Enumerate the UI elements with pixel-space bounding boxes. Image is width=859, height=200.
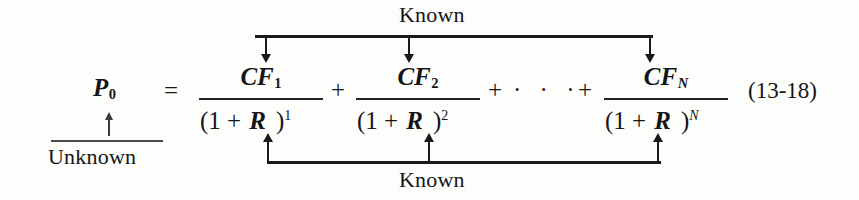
term-1-cf: CF <box>240 63 273 90</box>
bottom-known-label: Known <box>399 167 465 193</box>
term-3-exponent: N <box>689 108 698 123</box>
top-arrow-middle <box>404 36 414 63</box>
term-2-cf: CF <box>397 63 430 90</box>
top-arrow-left <box>261 36 271 63</box>
equals-sign: = <box>164 77 178 105</box>
term-1: CF1 (1 +R)1 <box>199 62 323 137</box>
term-3-denominator: (1 +R)N <box>604 100 728 137</box>
ellipsis: · · · <box>513 76 580 104</box>
unknown-rule <box>51 140 163 142</box>
bottom-arrow-right <box>653 133 663 163</box>
term-1-numerator: CF1 <box>199 62 323 98</box>
bottom-arrow-middle <box>424 133 434 163</box>
p-subscript: 0 <box>109 86 116 102</box>
term-3-open: (1 + <box>605 107 646 134</box>
top-known-label: Known <box>399 2 465 28</box>
term-1-sub: 1 <box>274 75 281 91</box>
term-3-close: ) <box>681 107 689 134</box>
unknown-label: Unknown <box>48 144 136 170</box>
bottom-arrow-left <box>263 133 273 163</box>
unknown-arrow <box>105 112 113 136</box>
term-2: CF2 (1 +R)2 <box>356 62 480 137</box>
term-1-rate: R <box>241 107 276 134</box>
term-2-denominator: (1 +R)2 <box>356 100 480 137</box>
term-2-numerator: CF2 <box>356 62 480 98</box>
plus-sign-2: + <box>488 76 502 104</box>
equation-number: (13-18) <box>748 78 817 104</box>
top-bracket-bar <box>255 35 653 38</box>
term-3: CFN (1 +R)N <box>604 62 728 137</box>
term-1-exponent: 1 <box>284 108 291 123</box>
term-1-close: ) <box>276 107 284 134</box>
top-arrow-right <box>645 36 655 63</box>
equation-figure: Known P0 Unknown = CF1 (1 +R)1 + <box>0 0 859 200</box>
term-3-sub: N <box>678 75 688 91</box>
term-3-numerator: CFN <box>604 62 728 98</box>
plus-sign-1: + <box>331 76 345 104</box>
term-2-close: ) <box>433 107 441 134</box>
term-1-open: (1 + <box>200 107 241 134</box>
p-symbol: P <box>93 74 108 101</box>
term-1-denominator: (1 +R)1 <box>199 100 323 137</box>
term-2-sub: 2 <box>431 75 438 91</box>
bottom-bracket-bar <box>267 161 661 164</box>
term-2-exponent: 2 <box>441 108 448 123</box>
term-2-rate: R <box>398 107 433 134</box>
plus-sign-3: + <box>578 76 592 104</box>
term-3-rate: R <box>646 107 681 134</box>
term-3-cf: CF <box>644 63 677 90</box>
term-2-open: (1 + <box>357 107 398 134</box>
left-side-symbol: P0 <box>93 74 116 103</box>
